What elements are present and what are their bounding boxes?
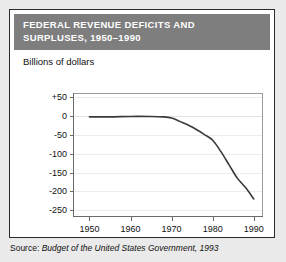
- x-axis-line: [73, 216, 263, 217]
- x-axis-tick-label: 1970: [162, 224, 182, 234]
- chart-body: Billions of dollars +500-50-100-150-200-…: [14, 52, 270, 235]
- x-axis-tick-label: 1960: [120, 224, 140, 234]
- chart-title-bar: FEDERAL REVENUE DEFICITS AND SURPLUSES, …: [14, 14, 270, 50]
- chart-panel: FEDERAL REVENUE DEFICITS AND SURPLUSES, …: [9, 9, 275, 238]
- chart-title-line-2: SURPLUSES, 1950–1990: [23, 32, 270, 45]
- y-axis-tick-label: +50: [52, 92, 67, 102]
- x-axis-tick-label: 1950: [79, 224, 99, 234]
- plot-right-border: [262, 93, 263, 216]
- y-axis-tick-label: -250: [49, 205, 67, 215]
- source-note: Source: Budget of the United States Gove…: [10, 243, 218, 253]
- y-axis-tick-label: -100: [49, 149, 67, 159]
- y-axis-tick-label: 0: [62, 111, 67, 121]
- y-axis-tick-label: -200: [49, 186, 67, 196]
- x-axis-tick-label: 1980: [203, 224, 223, 234]
- y-axis-title: Billions of dollars: [23, 56, 94, 67]
- chart-title-line-1: FEDERAL REVENUE DEFICITS AND: [23, 19, 270, 32]
- source-reference: Budget of the United States Government, …: [42, 243, 219, 253]
- y-axis-tick-label: -150: [49, 168, 67, 178]
- data-series-line: [73, 93, 262, 216]
- source-label: Source:: [10, 243, 42, 253]
- plot-area: +500-50-100-150-200-250 1950196019701980…: [73, 93, 262, 216]
- x-axis-tick-label: 1990: [244, 224, 264, 234]
- y-axis-tick-label: -50: [54, 130, 67, 140]
- figure-container: FEDERAL REVENUE DEFICITS AND SURPLUSES, …: [0, 0, 286, 262]
